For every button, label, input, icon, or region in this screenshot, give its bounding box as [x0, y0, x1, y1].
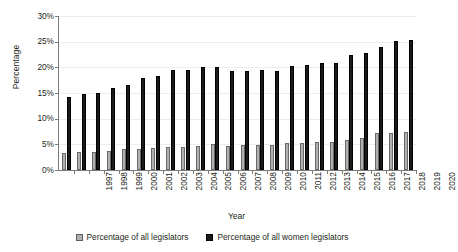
bar: [375, 133, 379, 170]
bar: [201, 67, 205, 170]
bar: [215, 67, 219, 170]
bar: [349, 55, 353, 170]
dark-square-icon: [206, 234, 213, 241]
x-tick-label: 2006: [238, 172, 249, 206]
x-tick-label: 2002: [179, 172, 190, 206]
y-tick-label: 0%: [18, 165, 54, 176]
bar: [245, 71, 249, 170]
bar-group: [122, 16, 131, 170]
x-axis-title: Year: [58, 210, 415, 222]
bar: [389, 133, 393, 170]
y-tick-label: 5%: [18, 139, 54, 150]
x-tick-label: 2015: [372, 172, 383, 206]
bar-group: [77, 16, 86, 170]
bar: [211, 144, 215, 170]
bar: [285, 143, 289, 170]
bar-group: [62, 16, 71, 170]
y-tick-label: 15%: [18, 88, 54, 99]
bar-group: [151, 16, 160, 170]
bar-group: [315, 16, 324, 170]
bar-group: [330, 16, 339, 170]
bar: [226, 146, 230, 170]
bar: [196, 146, 200, 170]
x-tick-label: 2016: [387, 172, 398, 206]
bar-group: [196, 16, 205, 170]
bar: [334, 63, 338, 170]
bar: [141, 78, 145, 170]
bar-group: [345, 16, 354, 170]
bar: [62, 153, 66, 170]
bar-group: [285, 16, 294, 170]
legend-item: Percentage of all legislators: [76, 230, 189, 244]
bar-group: [226, 16, 235, 170]
bar: [186, 70, 190, 170]
bar: [290, 66, 294, 170]
bar: [320, 63, 324, 170]
bar-group: [137, 16, 146, 170]
x-axis-tick-labels: 1997199819992000200120022003200420052006…: [58, 172, 415, 210]
bar: [345, 140, 349, 170]
x-tick-label: 2009: [283, 172, 294, 206]
x-tick-label: 2011: [313, 172, 324, 206]
bar: [151, 148, 155, 170]
bar: [360, 138, 364, 170]
x-tick-label: 1997: [104, 172, 115, 206]
bar-group: [360, 16, 369, 170]
x-tick-label: 2008: [268, 172, 279, 206]
bar-group: [404, 16, 413, 170]
x-tick-label: 2017: [402, 172, 413, 206]
bar: [379, 47, 383, 170]
bar-group: [211, 16, 220, 170]
bar: [77, 152, 81, 170]
x-tick-label: 2019: [432, 172, 443, 206]
x-tick-label: 2010: [298, 172, 309, 206]
bar: [330, 142, 334, 170]
bar: [107, 151, 111, 171]
bar-group: [166, 16, 175, 170]
x-tick-label: 2004: [209, 172, 220, 206]
bar: [394, 41, 398, 170]
y-tick-label: 20%: [18, 62, 54, 73]
bar-group: [300, 16, 309, 170]
bar: [166, 147, 170, 170]
light-square-icon: [76, 234, 83, 241]
bar: [364, 53, 368, 170]
x-tick-label: 2013: [342, 172, 353, 206]
x-tick-label: 2001: [164, 172, 175, 206]
x-tick-label: 1999: [134, 172, 145, 206]
x-tick-label: 2005: [223, 172, 234, 206]
bar-group: [375, 16, 384, 170]
bar: [241, 145, 245, 170]
bar: [256, 145, 260, 170]
bar: [67, 97, 71, 170]
bar: [156, 76, 160, 170]
bar: [305, 65, 309, 170]
y-tick-label: 10%: [18, 113, 54, 124]
y-tick-label: 25%: [18, 36, 54, 47]
bar: [92, 152, 96, 170]
x-tick-label: 2003: [194, 172, 205, 206]
bar: [171, 70, 175, 170]
x-tick-label: 2000: [149, 172, 160, 206]
bar: [260, 70, 264, 170]
legend-label: Percentage of all women legislators: [217, 232, 348, 242]
bar: [270, 145, 274, 170]
y-tick-mark: [55, 170, 59, 171]
bar: [315, 142, 319, 170]
y-axis-tick-labels: 0%5%10%15%20%25%30%: [18, 0, 54, 252]
x-tick-label: 2018: [417, 172, 428, 206]
bar: [137, 149, 141, 170]
bar: [181, 147, 185, 170]
legend-item: Percentage of all women legislators: [206, 230, 348, 244]
bar: [96, 93, 100, 170]
x-tick-label: 2020: [447, 172, 458, 206]
bar-group: [256, 16, 265, 170]
y-tick-label: 30%: [18, 11, 54, 22]
bar: [409, 40, 413, 170]
bar-group: [92, 16, 101, 170]
bar-group: [241, 16, 250, 170]
bar: [122, 149, 126, 170]
bar-group: [389, 16, 398, 170]
legend-label: Percentage of all legislators: [87, 232, 189, 242]
